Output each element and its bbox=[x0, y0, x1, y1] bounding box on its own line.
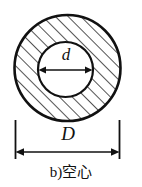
cross-section-drawing bbox=[0, 0, 142, 187]
inner-diameter-label: d bbox=[50, 46, 82, 63]
outer-diameter-label: D bbox=[52, 124, 84, 143]
hollow-section-figure: d D b)空心 bbox=[0, 0, 142, 187]
figure-caption: b)空心 bbox=[0, 160, 142, 181]
